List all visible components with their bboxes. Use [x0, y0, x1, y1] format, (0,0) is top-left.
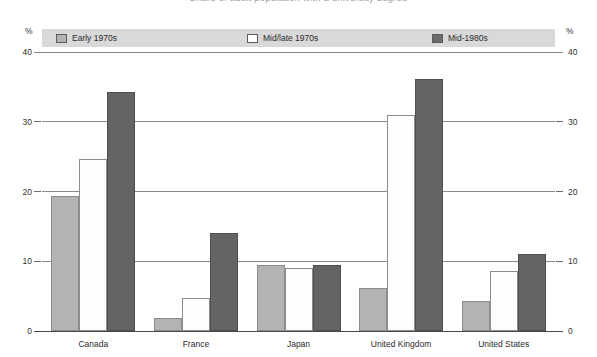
bar-chart: Share of adult population with a univers… — [0, 0, 597, 357]
chart-legend: Early 1970s Mid/late 1970s Mid-1980s — [42, 29, 555, 47]
bar-group-france — [154, 52, 238, 331]
legend-item-early-1970s: Early 1970s — [56, 32, 117, 44]
y-tick-mark — [34, 261, 41, 262]
bar-group-canada — [51, 52, 135, 331]
legend-label: Mid/late 1970s — [263, 33, 318, 43]
bar-united-kingdom-mid70 — [387, 115, 415, 331]
y-tick-label-right-0: 0 — [568, 326, 573, 336]
legend-label: Mid-1980s — [448, 33, 488, 43]
y-axis-unit-right: % — [566, 26, 574, 36]
bar-united-kingdom-mid80 — [415, 79, 443, 331]
bar-japan-mid70 — [285, 268, 313, 331]
x-axis-label-united-states: United States — [478, 339, 529, 349]
y-tick-mark — [34, 121, 41, 122]
bar-united-states-early — [462, 301, 490, 331]
bar-canada-early — [51, 196, 79, 331]
legend-label: Early 1970s — [72, 33, 117, 43]
y-tick-label-left-0: 0 — [16, 326, 32, 336]
x-axis-label-united-kingdom: United Kingdom — [371, 339, 431, 349]
bar-united-states-mid80 — [518, 254, 546, 331]
bar-japan-early — [257, 265, 285, 331]
x-axis-label-france: France — [183, 339, 209, 349]
x-axis-label-japan: Japan — [287, 339, 310, 349]
bar-canada-mid70 — [79, 159, 107, 331]
legend-swatch-icon — [56, 34, 67, 43]
bar-canada-mid80 — [107, 92, 135, 331]
bar-france-mid80 — [210, 233, 238, 331]
y-tick-mark — [556, 191, 563, 192]
bar-france-early — [154, 318, 182, 331]
y-axis-unit-left: % — [25, 26, 33, 36]
legend-item-mid-1980s: Mid-1980s — [432, 32, 488, 44]
y-tick-label-right-20: 20 — [568, 187, 577, 197]
bar-group-japan — [257, 52, 341, 331]
y-tick-label-right-30: 30 — [568, 117, 577, 127]
y-tick-label-left-20: 20 — [16, 187, 32, 197]
bar-united-kingdom-early — [359, 288, 387, 331]
bar-france-mid70 — [182, 298, 210, 331]
y-tick-label-left-30: 30 — [16, 117, 32, 127]
chart-title: Share of adult population with a univers… — [0, 0, 597, 4]
bar-group-united-states — [462, 52, 546, 331]
y-tick-label-right-10: 10 — [568, 256, 577, 266]
legend-swatch-icon — [247, 34, 258, 43]
bar-united-states-mid70 — [490, 271, 518, 331]
y-tick-mark — [34, 191, 41, 192]
bar-group-united-kingdom — [359, 52, 443, 331]
plot-area: 001010202030304040CanadaFranceJapanUnite… — [42, 52, 555, 331]
y-tick-mark — [556, 121, 563, 122]
legend-swatch-icon — [432, 34, 443, 43]
y-tick-label-right-40: 40 — [568, 47, 577, 57]
y-tick-mark — [556, 261, 563, 262]
bar-japan-mid80 — [313, 265, 341, 331]
y-tick-label-left-40: 40 — [16, 47, 32, 57]
x-axis-label-canada: Canada — [78, 339, 108, 349]
y-tick-label-left-10: 10 — [16, 256, 32, 266]
legend-item-mid-late-1970s: Mid/late 1970s — [247, 32, 318, 44]
